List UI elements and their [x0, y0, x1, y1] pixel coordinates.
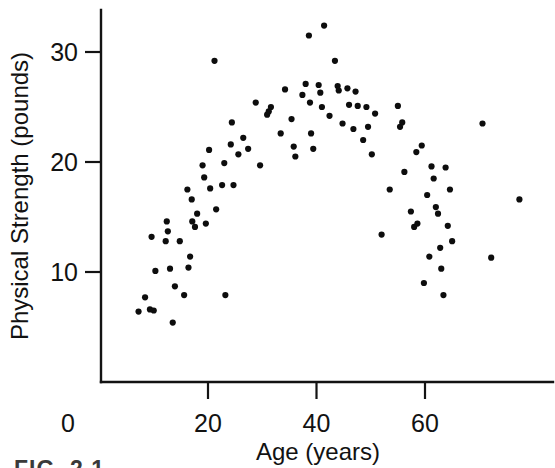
data-point [203, 221, 209, 227]
data-point [352, 89, 358, 95]
data-point [401, 169, 407, 175]
data-point [350, 126, 356, 132]
data-point [253, 100, 259, 106]
data-point [187, 254, 193, 260]
data-point [245, 146, 251, 152]
data-point [438, 266, 444, 272]
data-point [230, 182, 236, 188]
data-point [184, 186, 190, 192]
figure-caption: FIG. 2.1 [14, 458, 164, 468]
data-point [355, 103, 361, 109]
data-point [135, 309, 141, 315]
y-tick-label-group: 102030 [50, 38, 78, 286]
data-point [278, 130, 284, 136]
data-point [321, 23, 327, 29]
data-point [443, 164, 449, 170]
y-axis-title: Physical Strength (pounds) [6, 52, 33, 340]
data-point [299, 92, 305, 98]
data-point [344, 85, 350, 91]
data-point [163, 238, 169, 244]
data-point [319, 104, 325, 110]
data-point [326, 113, 332, 119]
data-point [172, 283, 178, 289]
data-point [479, 120, 485, 126]
y-tick-group [85, 52, 101, 272]
data-point [437, 245, 443, 251]
data-point [379, 232, 385, 238]
data-point [488, 255, 494, 261]
data-point [369, 151, 375, 157]
data-point [395, 103, 401, 109]
data-point [413, 149, 419, 155]
data-point [433, 204, 439, 210]
data-point [257, 162, 263, 168]
data-point [189, 196, 195, 202]
data-point [268, 104, 274, 110]
data-point [228, 141, 234, 147]
data-point [336, 87, 342, 93]
data-point [516, 196, 522, 202]
data-point [222, 292, 228, 298]
data-point [165, 228, 171, 234]
data-point [449, 238, 455, 244]
data-point [206, 147, 212, 153]
data-point [306, 32, 312, 38]
x-tick-label: 20 [194, 409, 222, 437]
data-point [428, 163, 434, 169]
data-point [421, 280, 427, 286]
data-point [201, 174, 207, 180]
data-point [399, 119, 405, 125]
data-point [365, 124, 371, 130]
origin-tick-label: 0 [61, 409, 75, 437]
data-point [424, 192, 430, 198]
x-tick-label: 60 [411, 409, 439, 437]
data-point [142, 294, 148, 300]
data-point [185, 265, 191, 271]
data-point [211, 58, 217, 64]
scatter-plot-figure: 102030 204060 0 Age (years) Physical Str… [0, 0, 555, 468]
data-point [235, 151, 241, 157]
data-point [419, 142, 425, 148]
x-tick-group [208, 382, 425, 399]
data-point [207, 185, 213, 191]
data-point [435, 211, 441, 217]
data-point [447, 186, 453, 192]
data-point [360, 137, 366, 143]
data-point [152, 268, 158, 274]
data-point [387, 186, 393, 192]
data-point [288, 116, 294, 122]
data-point [332, 58, 338, 64]
data-point [445, 223, 451, 229]
data-point [363, 104, 369, 110]
data-point [148, 234, 154, 240]
data-point [282, 86, 288, 92]
data-point [213, 206, 219, 212]
data-point [440, 292, 446, 298]
data-point [189, 218, 195, 224]
y-tick-label: 30 [50, 38, 78, 66]
data-point [194, 211, 200, 217]
x-axis-title: Age (years) [256, 438, 380, 465]
data-point [291, 144, 297, 150]
x-tick-label-group: 204060 [194, 409, 439, 437]
data-point [164, 218, 170, 224]
data-point [229, 119, 235, 125]
y-tick-label: 20 [50, 148, 78, 176]
data-point [167, 266, 173, 272]
data-point [303, 81, 309, 87]
data-point [317, 90, 323, 96]
data-point [346, 102, 352, 108]
data-point-layer [135, 23, 522, 326]
plot-canvas: 102030 204060 0 Age (years) Physical Str… [0, 0, 555, 468]
data-point [170, 320, 176, 326]
data-point [308, 130, 314, 136]
data-point [408, 208, 414, 214]
data-point [199, 162, 205, 168]
data-point [221, 160, 227, 166]
data-point [181, 292, 187, 298]
data-point [307, 100, 313, 106]
data-point [192, 224, 198, 230]
data-point [339, 120, 345, 126]
y-tick-label: 10 [50, 258, 78, 286]
x-tick-label: 40 [303, 409, 331, 437]
